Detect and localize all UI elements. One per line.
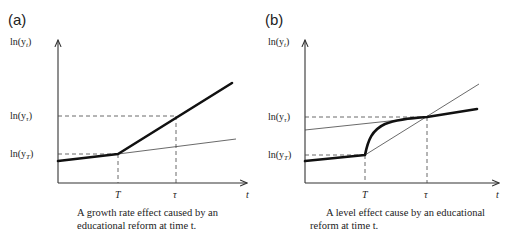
- caption-b-line1: A level effect cause by an educational: [326, 207, 485, 218]
- y-tick-ln-y-T: ln(yT): [10, 148, 33, 161]
- caption-a-line1: A growth rate effect caused by an: [77, 207, 219, 218]
- growth-path-line: [58, 83, 232, 161]
- panel-a-label: (a): [8, 11, 26, 28]
- x-tick-T: T: [362, 189, 369, 200]
- figure: (a) ln(yt) ln(yτ) ln(yT) T τ t A growth …: [0, 0, 519, 241]
- x-tick-T: T: [115, 189, 122, 200]
- counterfactual-trend-line: [118, 139, 236, 154]
- caption-b-line2: reform at time t.: [310, 220, 378, 231]
- x-tick-tau: τ: [424, 189, 428, 200]
- panel-a: (a) ln(yt) ln(yτ) ln(yT) T τ t A growth …: [8, 11, 249, 231]
- y-tick-ln-y-tau: ln(yτ): [268, 111, 290, 124]
- y-axis-title: ln(yt): [10, 36, 31, 49]
- panel-b-label: (b): [265, 11, 283, 28]
- transition-tangent-line: [365, 84, 479, 155]
- x-axis-title: t: [496, 189, 499, 200]
- panel-b: (b) ln(yt) ln(yτ) ln(yT) T τ t A level e…: [265, 11, 499, 231]
- caption-a-line2: educational reform at time t.: [77, 220, 196, 231]
- x-axis-title: t: [246, 189, 249, 200]
- y-axis-title: ln(yt): [268, 36, 289, 49]
- x-tick-tau: τ: [173, 189, 177, 200]
- y-tick-ln-y-T: ln(yT): [268, 149, 291, 162]
- y-tick-ln-y-tau: ln(yτ): [10, 110, 32, 123]
